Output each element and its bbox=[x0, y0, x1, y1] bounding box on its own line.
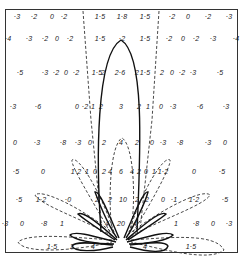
grid-value: 1·2 bbox=[36, 196, 46, 203]
grid-value: 2 bbox=[135, 69, 139, 76]
grid-value: 0 bbox=[161, 196, 165, 203]
grid-value: 0 bbox=[93, 168, 97, 175]
grid-value: 2 bbox=[135, 139, 139, 146]
grid-value: ·3 bbox=[223, 103, 229, 110]
grid-value: 0 bbox=[223, 139, 227, 146]
grid-value: ·2 bbox=[169, 13, 175, 20]
grid-value: ·5 bbox=[222, 196, 228, 203]
grid-value: 0 bbox=[150, 139, 154, 146]
grid-value: 0 bbox=[20, 220, 24, 227]
grid-value: 2 bbox=[135, 196, 139, 203]
grid-value: 2 bbox=[160, 69, 164, 76]
grid-value: 1 bbox=[91, 103, 95, 110]
grid-value: ·3 bbox=[75, 139, 81, 146]
grid-value: ·2 bbox=[61, 13, 67, 20]
grid-value: ·2 bbox=[82, 103, 88, 110]
grid-value: 1·5 bbox=[140, 35, 150, 42]
grid-value: 4 bbox=[133, 220, 137, 227]
grid-value: 0 bbox=[64, 69, 68, 76]
grid-value: ·3 bbox=[210, 35, 216, 42]
grid-value: 0 bbox=[211, 220, 215, 227]
grid-value: 2 bbox=[101, 69, 105, 76]
grid-value: 1·5 bbox=[186, 243, 196, 250]
grid-value: 0 bbox=[75, 103, 79, 110]
grid-value: ·3 bbox=[205, 139, 211, 146]
grid-value: ·4 bbox=[5, 35, 11, 42]
grid-value: ·8 bbox=[41, 220, 47, 227]
grid-value: ·3 bbox=[2, 220, 8, 227]
grid-value: 4 bbox=[119, 139, 123, 146]
grid-value: 1·8 bbox=[117, 13, 127, 20]
grid-value: ·2 bbox=[73, 69, 79, 76]
grid-value: 2 bbox=[95, 196, 99, 203]
grid-value: 2 bbox=[102, 168, 106, 175]
grid-value: ·3 bbox=[42, 69, 48, 76]
grid-value: 2·6 bbox=[115, 69, 125, 76]
grid-value: 1·2 bbox=[158, 168, 168, 175]
grid-value: 1·2 bbox=[189, 196, 199, 203]
grid-value: ·3 bbox=[14, 13, 20, 20]
grid-value: ·2 bbox=[193, 35, 199, 42]
grid-value: ·2 bbox=[166, 35, 172, 42]
grid-value: ·5 bbox=[13, 168, 19, 175]
grid-value: 1·5 bbox=[95, 13, 105, 20]
grid-value: ·6 bbox=[35, 103, 41, 110]
grid-value: 2 bbox=[137, 168, 141, 175]
grid-value: 4 bbox=[130, 168, 134, 175]
grid-value: 0 bbox=[192, 168, 196, 175]
grid-value: ·3 bbox=[160, 139, 166, 146]
grid-value: 1 bbox=[174, 220, 178, 227]
grid-value: 0 bbox=[170, 69, 174, 76]
grid-value: 0 bbox=[88, 139, 92, 146]
grid-value: 1 bbox=[152, 168, 156, 175]
dashed-contours bbox=[18, 11, 224, 255]
grid-value: 2 bbox=[145, 196, 149, 203]
grid-value: ·3 bbox=[26, 35, 32, 42]
grid-value: 0 bbox=[55, 35, 59, 42]
grid-value: 4 bbox=[108, 168, 112, 175]
grid-value: ·3 bbox=[34, 139, 40, 146]
grid-value: 4 bbox=[143, 243, 147, 250]
grid-value: 1 bbox=[60, 220, 64, 227]
grid-value: 0 bbox=[41, 168, 45, 175]
grid-value: 0 bbox=[159, 103, 163, 110]
grid-value: 0 bbox=[181, 35, 185, 42]
grid-value: ·3 bbox=[190, 69, 196, 76]
grid-value: 20 bbox=[117, 220, 125, 227]
grid-value: ·2 bbox=[31, 13, 37, 20]
grid-value: ·3 bbox=[226, 13, 232, 20]
grid-value: 2 bbox=[137, 103, 141, 110]
grid-value: 1 bbox=[85, 168, 89, 175]
grid-value: 2 bbox=[102, 139, 106, 146]
grid-value: ·4 bbox=[233, 35, 239, 42]
grid-value: 2 bbox=[70, 243, 74, 250]
grid-value: ·3 bbox=[170, 103, 176, 110]
grid-value: ·2 bbox=[67, 35, 73, 42]
grid-value: 1 bbox=[146, 103, 150, 110]
grid-value: ·5 bbox=[17, 69, 23, 76]
grid-value: 0 bbox=[144, 168, 148, 175]
grid-value: 3 bbox=[119, 103, 123, 110]
grid-value: 0 bbox=[186, 13, 190, 20]
grid-value: 10 bbox=[119, 196, 127, 203]
grid-value: 1·2 bbox=[71, 168, 81, 175]
grid-value: ·3 bbox=[10, 103, 16, 110]
grid-value: 1·5 bbox=[47, 243, 57, 250]
grid-value: 0 bbox=[13, 139, 17, 146]
grid-value: 1·5 bbox=[140, 69, 150, 76]
grid-value: ·8 bbox=[60, 139, 66, 146]
grid-value: ·5 bbox=[219, 168, 225, 175]
grid-value: ·8 bbox=[193, 220, 199, 227]
grid-value: 0 bbox=[50, 13, 54, 20]
grid-value: ·6 bbox=[197, 103, 203, 110]
grid-value: 4 bbox=[105, 220, 109, 227]
grid-value: ·2 bbox=[42, 35, 48, 42]
grid-value: 1·5 bbox=[95, 35, 105, 42]
grid-value: ·2 bbox=[119, 35, 125, 42]
grid-value: ·5 bbox=[217, 69, 223, 76]
grid-value: 1·5 bbox=[140, 13, 150, 20]
grid-value: ·0 bbox=[65, 196, 71, 203]
grid-value: ·2 bbox=[53, 69, 59, 76]
grid-value: 2 bbox=[99, 103, 103, 110]
grid-value: ·5 bbox=[16, 196, 22, 203]
